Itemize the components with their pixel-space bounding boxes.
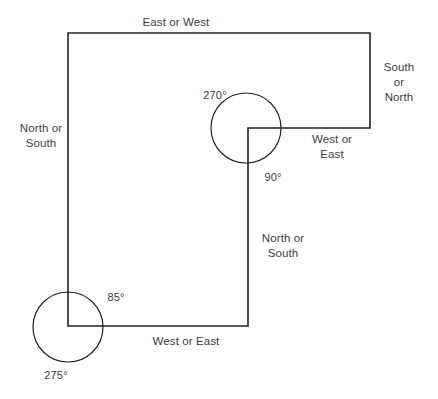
- traverse-drawing: [0, 0, 438, 399]
- traverse-path: [68, 33, 370, 326]
- traverse-path-group: [68, 33, 370, 326]
- vertex-circles-group: [33, 93, 281, 362]
- bearing-traverse-diagram: East or West South or North West or East…: [0, 0, 438, 399]
